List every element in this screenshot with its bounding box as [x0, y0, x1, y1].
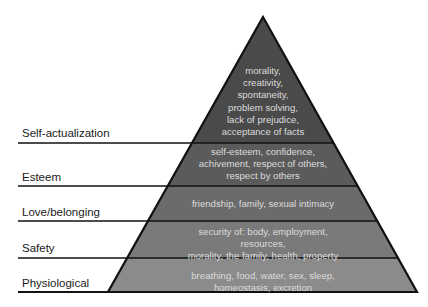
tier-description-safety: security of: body, employment, resources…	[181, 226, 346, 263]
tier-description-esteem: self-esteem, confidence, achivement, res…	[199, 146, 328, 183]
level-label-physiological: Physiological	[22, 277, 89, 289]
tier-description-self-actualization: morality, creativity, spontaneity, probl…	[222, 65, 305, 138]
tier-description-love-belonging: friendship, family, sexual intimacy	[192, 198, 334, 210]
level-label-esteem: Esteem	[22, 171, 61, 183]
level-label-self-actualization: Self-actualization	[22, 127, 110, 139]
level-label-love-belonging: Love/belonging	[22, 206, 100, 218]
level-label-safety: Safety	[22, 242, 55, 254]
tier-description-physiological: breathing, food, water, sex, sleep, home…	[181, 270, 346, 294]
